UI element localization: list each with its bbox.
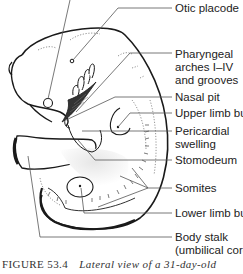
label-text: Pericardial [175,125,229,138]
label-upper-limb-bud: Upper limb bud [175,107,243,120]
eye-lens-placode-shape [44,99,53,108]
label-text: Somites [175,182,217,194]
label-text: Nasal pit [175,91,220,103]
figure-caption: FIGURE 53.4 Lateral view of a 31-day-old [2,258,216,270]
label-text: Pharyngeal [175,48,238,61]
caption-text: Lateral view of a 31-day-old [79,258,216,270]
label-nasal-pit: Nasal pit [175,91,220,104]
label-pericardial-swelling: Pericardial swelling [175,125,229,151]
lower-limb-bud-dot [79,185,81,187]
label-text: (umbilical cord) [175,244,243,257]
label-text: Otic placode [175,2,239,14]
figure-number: FIGURE 53.4 [2,258,68,270]
label-text: Body stalk [175,231,243,244]
label-text: arches I–IV [175,61,238,74]
label-body-stalk: Body stalk (umbilical cord) [175,231,243,257]
embryo-body-outline [22,28,168,229]
label-text: and grooves [175,74,238,87]
label-text: Stomodeum [175,154,237,166]
label-text: Lower limb bud [175,207,243,219]
label-stomodeum: Stomodeum [175,154,237,167]
head-front-outline [11,55,68,126]
label-pharyngeal-arches: Pharyngeal arches I–IV and grooves [175,48,238,87]
label-otic-placode: Otic placode [175,2,239,15]
label-somites: Somites [175,182,217,195]
label-text: Upper limb bud [175,107,243,119]
embryo-diagram-figure: Otic placode Pharyngeal arches I–IV and … [0,0,243,274]
label-text: swelling [175,138,229,151]
label-lower-limb-bud: Lower limb bud [175,207,243,220]
